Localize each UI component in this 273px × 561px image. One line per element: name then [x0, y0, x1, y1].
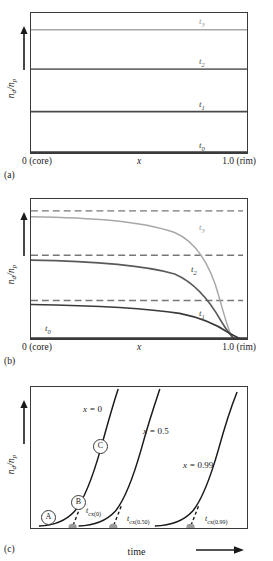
curve-t1: [31, 304, 240, 338]
annotation-marker-a: A: [41, 510, 56, 525]
curve-label-t1-b: t1: [199, 309, 205, 320]
plot-area-c: x = 0 x = 0.5 x = 0.99 tcx(0) tcx(0.50) …: [30, 386, 248, 529]
curve-label-t2-b: t2: [191, 265, 197, 276]
x-axis-mid-label-a: x: [137, 156, 141, 166]
curve-label-t3-b: t3: [199, 223, 205, 234]
curve-x099: [155, 392, 237, 526]
y-axis-label-text-c: nd/np: [6, 455, 16, 475]
panel-tag-a: (a): [4, 170, 15, 180]
y-axis-label-text-b: nd/np: [6, 265, 16, 285]
intercept-label-tcx050: tcx(0.50): [127, 515, 149, 525]
curve-label-x05: x = 0.5: [143, 427, 169, 436]
panel-c: nd/np x = 0: [0, 372, 273, 561]
intercept-label-tcx0: tcx(0): [86, 507, 101, 517]
onset-dot-x099: [186, 524, 194, 528]
curve-label-t3: t3: [199, 17, 205, 28]
curve-t2: [31, 260, 234, 338]
curve-label-t1: t1: [199, 100, 205, 111]
onset-dot-x0: [68, 524, 76, 528]
plot-lines-a: [31, 13, 247, 153]
y-axis-arrow-c: [18, 400, 30, 444]
annotation-marker-b: B: [71, 495, 86, 510]
plot-curves-c: [31, 387, 247, 528]
plot-curves-b: [31, 199, 247, 339]
y-axis-arrow-a: [18, 26, 30, 70]
curve-label-t0: t0: [199, 141, 205, 152]
y-axis-label-c: nd/np: [6, 436, 19, 492]
x-axis-left-label-a: 0 (core): [22, 156, 52, 166]
x-axis-labels-a: 0 (core) x 1.0 (rim): [16, 156, 262, 170]
y-axis-label-a: nd/np: [6, 60, 19, 116]
curve-label-t0-b: t0: [45, 324, 51, 335]
intercept-label-tcx099: tcx(0.99): [205, 515, 227, 525]
curve-label-x0: x = 0: [83, 405, 102, 414]
panel-b: nd/np t3 t2: [0, 186, 273, 372]
panel-a: nd/np t3 t2 t1 t0 0 (core): [0, 0, 273, 186]
x-axis-right-label-b: 1.0 (rim): [222, 342, 256, 352]
onset-dot-x05: [109, 524, 117, 528]
plot-area-a: t3 t2 t1 t0: [30, 12, 248, 154]
curve-label-x099: x = 0.99: [183, 461, 213, 470]
time-direction-arrow: [196, 544, 244, 556]
panel-tag-c: (c): [4, 544, 15, 554]
plot-area-b: t3 t2 t1 t0: [30, 198, 248, 340]
annotation-marker-c: C: [93, 439, 108, 454]
figure-root: nd/np t3 t2 t1 t0 0 (core): [0, 0, 273, 561]
x-axis-right-label-a: 1.0 (rim): [222, 156, 256, 166]
x-axis-mid-label-b: x: [137, 342, 141, 352]
y-axis-label-b: nd/np: [6, 246, 19, 302]
panel-tag-b: (b): [4, 356, 15, 366]
curve-label-t2: t2: [199, 57, 205, 68]
y-axis-arrow-b: [18, 212, 30, 256]
x-axis-labels-b: 0 (core) x 1.0 (rim): [16, 342, 262, 356]
y-axis-label-text-a: nd/np: [6, 79, 16, 99]
x-axis-left-label-b: 0 (core): [22, 342, 52, 352]
